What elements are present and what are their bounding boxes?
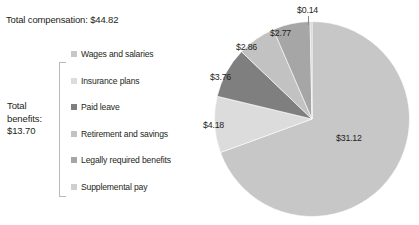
- pie-label-wages: $31.12: [336, 133, 362, 143]
- legend-item-label: Insurance plans: [81, 76, 139, 86]
- total-compensation-label: Total compensation: $44.82: [6, 14, 118, 25]
- legend-item-label: Supplemental pay: [81, 182, 147, 192]
- legend-item-label: Paid leave: [81, 102, 120, 112]
- pie-label-paid-leave: $3.76: [210, 72, 231, 82]
- pie-label-supplemental: $0.14: [297, 5, 318, 15]
- total-benefits-bracket: [59, 62, 66, 197]
- pie-label-legally-required: $2.77: [270, 28, 291, 38]
- total-benefits-label: Total benefits: $13.70: [7, 100, 59, 138]
- legend-swatch-icon: [71, 184, 77, 190]
- pie-leader-line-supplemental: [308, 16, 309, 25]
- legend-item-label: Wages and salaries: [81, 49, 153, 59]
- legend-item-paid-leave[interactable]: Paid leave: [71, 94, 196, 121]
- legend-item-retirement-and-savings[interactable]: Retirement and savings: [71, 121, 196, 148]
- legend-swatch-icon: [71, 131, 77, 137]
- legend-swatch-icon: [71, 104, 77, 110]
- legend-item-label: Retirement and savings: [81, 129, 168, 139]
- pie-label-retirement: $2.86: [236, 42, 257, 52]
- legend-item-insurance-plans[interactable]: Insurance plans: [71, 68, 196, 95]
- legend-swatch-icon: [71, 51, 77, 57]
- compensation-pie-figure: Total compensation: $44.82 Total benefit…: [0, 0, 419, 225]
- legend-swatch-icon: [71, 78, 77, 84]
- legend-item-supplemental-pay[interactable]: Supplemental pay: [71, 174, 196, 201]
- legend-swatch-icon: [71, 157, 77, 163]
- legend-item-wages-and-salaries[interactable]: Wages and salaries: [71, 41, 196, 68]
- chart-legend: Wages and salaries Insurance plans Paid …: [71, 41, 196, 200]
- legend-item-legally-required-benefits[interactable]: Legally required benefits: [71, 147, 196, 174]
- legend-item-label: Legally required benefits: [81, 155, 171, 165]
- pie-label-insurance: $4.18: [203, 120, 224, 130]
